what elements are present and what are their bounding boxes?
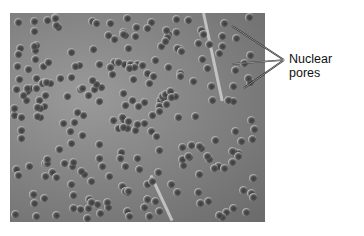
leader-lines bbox=[0, 0, 364, 236]
nuclear-pores-label: Nuclear pores bbox=[289, 52, 364, 80]
